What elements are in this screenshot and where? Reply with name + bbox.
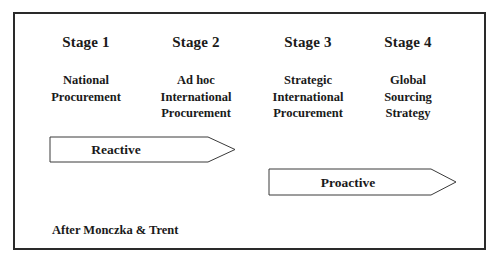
reactive-arrow: Reactive [50, 137, 235, 162]
source-footnote: After Monczka & Trent [52, 222, 178, 238]
reactive-arrow-label: Reactive [91, 142, 140, 157]
proactive-arrow-label: Proactive [321, 175, 375, 190]
reactive-arrow-shape [50, 137, 235, 162]
proactive-arrow: Proactive [269, 169, 456, 195]
